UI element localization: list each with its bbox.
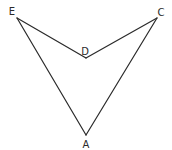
edge-a-e — [17, 18, 86, 135]
vertex-label-e: E — [9, 6, 15, 17]
edge-e-d — [17, 18, 86, 58]
edge-c-a — [86, 18, 157, 135]
geometry-diagram: E C D A — [0, 0, 172, 150]
vertex-label-d: D — [81, 46, 89, 57]
vertex-label-c: C — [158, 7, 165, 18]
vertex-label-a: A — [83, 139, 90, 150]
edge-d-c — [86, 18, 157, 58]
